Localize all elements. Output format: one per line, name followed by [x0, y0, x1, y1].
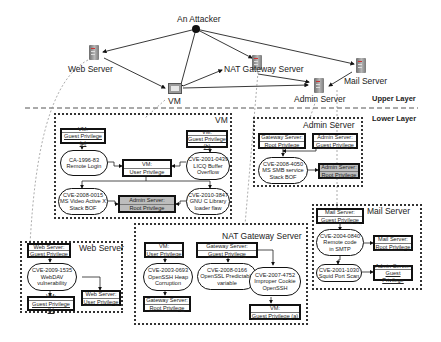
admin-server-root-privilege: Admin Server: Root Privilege [318, 163, 360, 179]
vm-guest-privilege-a: VM: Guest Privilege (a) [60, 128, 106, 144]
mail-server-guest-privilege: Mail Server: Guest Privilege [316, 208, 364, 224]
web-server-group-title: Web Server [79, 243, 124, 253]
vuln-cve-2010-3847: CVE-2010-3847 GNU C Library loader flaw [186, 188, 230, 215]
nat-gateway-server-label: NAT Gateway Server [224, 64, 304, 74]
admin-server-label: Admin Server [294, 94, 346, 104]
mail-server-label: Mail Server [344, 76, 387, 86]
mail-server-icon [356, 58, 366, 73]
nat-gateway-server-group-title: NAT Gateway Server [222, 231, 302, 241]
vuln-cve-2003-0693: CVE-2003-0693 OpenSSH Heap Corruption [143, 263, 193, 291]
vm-label: VM [168, 96, 181, 106]
vm-guest-privilege-b: VM: Guest Privilege (b) [186, 130, 228, 148]
gateway-server-guest-privilege: Gateway Server: Guest Privilege [196, 242, 258, 258]
admin-server-guest-privilege-mail: Admin Server: Guest Privilege [373, 265, 413, 281]
admin-server-guest-privilege: Admin Server: Guest Privilege [312, 133, 358, 149]
web-server-label: Web Server [68, 64, 113, 74]
gateway-server-root-privilege-admin: Gateway Server: Root Privilege [258, 133, 306, 149]
vuln-cve-2001-0439: CVE-2001-0439 LICQ Buffer Overflow [186, 152, 230, 180]
web-server-user-privilege: Web Server: User Privilege [81, 290, 121, 306]
vm-user-privilege-nat: VM: User Privilege [144, 242, 184, 258]
vuln-cve-2008-4050: CVE-2008-4050 MS SMB service Stack BOF [258, 157, 308, 184]
attacker-label: An Attacker [177, 14, 220, 24]
admin-server-root-privilege-vm: Admin Server: Root Privilege [118, 195, 176, 213]
upper-layer-label: Upper Layer [372, 94, 416, 103]
web-server-icon [89, 45, 99, 60]
admin-server-icon [314, 78, 324, 93]
lower-layer-label: Lower Layer [372, 114, 416, 123]
vm-group-title: VM [215, 115, 228, 125]
vm-user-privilege: VM: User Privilege [122, 159, 172, 177]
vuln-cve-2004-0840: CVE-2004-0840 Remote code in SMTP [316, 229, 364, 256]
vuln-cve-2009-1535: CVE-2009-1535 WebDAV vulnerability [27, 263, 77, 291]
vuln-cve-2008-0015: CVE-2008-0015 MS Video Active X Stack BO… [58, 188, 108, 215]
attacker-icon [192, 25, 200, 33]
vuln-ca-1996-83: CA-1996-83 Remote Login [60, 150, 108, 176]
vuln-cve-2007-4752: CVE-2007-4752 Improper Cookie OpenSSH [249, 267, 301, 296]
mail-server-group-title: Mail Server [367, 206, 410, 216]
vm-guest-privilege-b-web: VM: Guest Privilege (b) [27, 296, 75, 311]
vm-guest-privilege-a-nat: VM: Guest Privilege (a) [249, 304, 301, 320]
attack-graph-diagram: An Attacker Web Server VM NAT Gateway Se… [0, 0, 441, 342]
vuln-cve-2008-0166: CVE-2008-0166 OpenSSL Predictable variab… [197, 263, 257, 290]
vuln-cve-2001-1030: CVE-2001-1030 Squid Port Scan [316, 264, 362, 282]
mail-server-root-privilege: Mail Server: Root Privilege [373, 235, 413, 251]
vm-icon [168, 83, 182, 94]
gateway-server-root-privilege-nat: Gateway Server: Root Privilege [143, 296, 191, 312]
web-server-guest-privilege: Web Server: Guest Privilege [27, 243, 71, 258]
admin-server-group-title: Admin Server [303, 120, 355, 130]
